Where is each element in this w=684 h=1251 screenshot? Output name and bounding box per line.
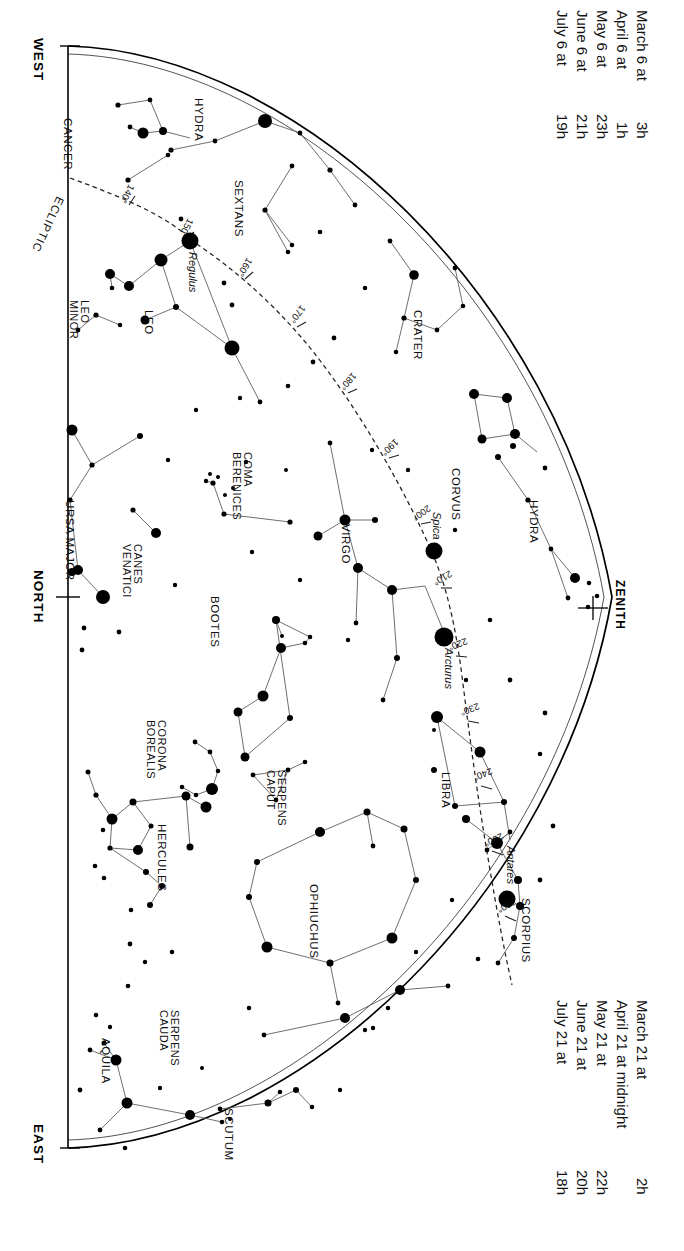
time-unit: h bbox=[614, 130, 631, 138]
time-legend-bottom-date-2: May 21 at bbox=[594, 1000, 611, 1066]
time-legend-bottom-date-4: July 21 at bbox=[554, 1000, 571, 1064]
constellation-label-hydra-lower: HYDRA bbox=[528, 500, 540, 543]
constellation-label-leo-minor: LEO MINOR bbox=[68, 300, 90, 339]
constellation-label-corvus: CORVUS bbox=[450, 468, 462, 521]
time-value: 21 bbox=[574, 114, 591, 131]
time-legend-bottom-date-0: March 21 at bbox=[634, 1000, 651, 1079]
time-value: 18 bbox=[554, 1170, 571, 1187]
star-chart: WEST NORTH EAST ZENITH ECLIPTIC 140° 150… bbox=[0, 0, 684, 1251]
time-legend-top-date-3: June 6 at bbox=[574, 10, 591, 72]
constellation-label-scorpius: SCORPIUS bbox=[520, 898, 532, 963]
time-legend-bottom-time-3: 20h bbox=[574, 1170, 591, 1195]
time-legend-bottom-date-1: April 21 at midnight bbox=[614, 1000, 631, 1128]
constellation-label-virgo: VIRGO bbox=[340, 524, 352, 564]
time-unit: h bbox=[574, 1187, 591, 1195]
time-legend-top-date-1: April 6 at bbox=[614, 10, 631, 69]
time-unit: h bbox=[634, 130, 651, 138]
time-unit: h bbox=[574, 131, 591, 139]
constellation-label-serpens-caput: SERPENS CAPUT bbox=[265, 770, 287, 826]
constellation-label-hydra-upper: HYDRA bbox=[193, 98, 205, 141]
time-legend-top-time-1: 1h bbox=[614, 122, 631, 139]
cardinal-west: WEST bbox=[31, 38, 46, 81]
time-value: 23 bbox=[594, 114, 611, 131]
time-legend-bottom-time-0: 2h bbox=[634, 1178, 651, 1195]
constellation-label-coma-berenices: COMA BERENICES bbox=[231, 452, 253, 520]
constellation-label-serpens-cauda: SERPENS CAUDA bbox=[158, 1010, 180, 1066]
constellation-lines bbox=[70, 100, 575, 1130]
constellation-label-scutum: SCUTUM bbox=[223, 1108, 235, 1161]
time-unit: h bbox=[554, 131, 571, 139]
time-legend-top-date-2: May 6 at bbox=[594, 10, 611, 68]
time-value: 20 bbox=[574, 1170, 591, 1187]
time-unit: h bbox=[594, 131, 611, 139]
time-value: 19 bbox=[554, 114, 571, 131]
time-legend-bottom-date-3: June 21 at bbox=[574, 1000, 591, 1070]
constellation-label-crater: CRATER bbox=[412, 310, 424, 360]
constellation-label-aquila: AQUILA bbox=[100, 1038, 112, 1084]
time-unit: h bbox=[554, 1187, 571, 1195]
star-label-spica: Spica bbox=[431, 512, 443, 540]
time-legend-top-time-2: 23h bbox=[594, 114, 611, 139]
star-label-regulus: Regulus bbox=[187, 252, 199, 292]
time-value: 22 bbox=[594, 1170, 611, 1187]
time-unit: h bbox=[594, 1187, 611, 1195]
time-unit: h bbox=[634, 1186, 651, 1194]
time-legend-top-time-0: 3h bbox=[634, 122, 651, 139]
constellation-label-leo: LEO bbox=[143, 310, 155, 335]
cardinal-north: NORTH bbox=[31, 570, 46, 624]
time-legend-top-date-0: March 6 at bbox=[634, 10, 651, 81]
time-legend-bottom-time-4: 18h bbox=[554, 1170, 571, 1195]
constellation-label-cancer: CANCER bbox=[62, 118, 74, 170]
constellation-label-libra: LIBRA bbox=[440, 772, 452, 808]
constellation-label-ursa-major: URSA MAJOR bbox=[64, 500, 76, 581]
constellation-label-corona-borealis: CORONA BOREALIS bbox=[145, 720, 167, 779]
time-legend-top-time-4: 19h bbox=[554, 114, 571, 139]
constellation-label-canes-venatici: CANES VENATICI bbox=[121, 544, 143, 598]
cardinal-zenith: ZENITH bbox=[613, 580, 627, 630]
constellation-label-sextans: SEXTANS bbox=[233, 180, 245, 237]
constellation-label-hercules: HERCULES bbox=[156, 824, 168, 891]
constellation-label-bootes: BOOTES bbox=[209, 596, 221, 648]
time-legend-top-time-3: 21h bbox=[574, 114, 591, 139]
time-legend-bottom-time-2: 22h bbox=[594, 1170, 611, 1195]
constellation-label-ophiuchus: OPHIUCHUS bbox=[308, 884, 320, 958]
time-legend-top-date-4: July 6 at bbox=[554, 10, 571, 66]
star-label-arcturus: Arcturus bbox=[443, 648, 455, 689]
star-label-antares: Antares bbox=[505, 846, 517, 884]
star-field bbox=[67, 98, 600, 1151]
cardinal-east: EAST bbox=[31, 1124, 46, 1164]
